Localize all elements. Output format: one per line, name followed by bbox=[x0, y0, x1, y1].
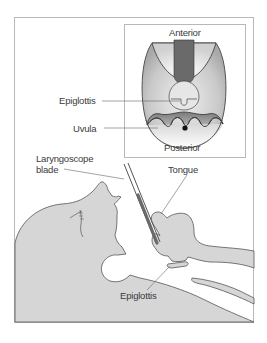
label-blade: blade bbox=[36, 164, 58, 175]
inset-blade bbox=[174, 40, 194, 84]
label-posterior: Posterior bbox=[164, 142, 200, 153]
label-anterior: Anterior bbox=[169, 27, 201, 38]
label-main-epiglottis: Epiglottis bbox=[120, 290, 157, 301]
inset-epiglottis bbox=[169, 81, 199, 110]
label-tongue: Tongue bbox=[168, 164, 198, 175]
intubation-diagram: Anterior Posterior Epiglottis Uvula Lary… bbox=[0, 0, 267, 343]
inset-uvula-dot bbox=[182, 125, 187, 130]
label-laryngoscope: Laryngoscope bbox=[36, 153, 93, 164]
label-uvula: Uvula bbox=[73, 123, 96, 134]
label-inset-epiglottis: Epiglottis bbox=[59, 95, 96, 106]
